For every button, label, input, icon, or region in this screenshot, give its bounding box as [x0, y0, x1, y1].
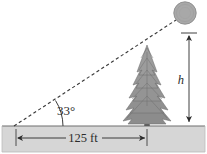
sun-circle — [174, 2, 196, 24]
angle-label: 33° — [57, 103, 75, 118]
base-distance-label: 125 ft — [68, 131, 98, 145]
trigonometry-figure: 33° 125 ft h — [0, 0, 207, 154]
ground-band — [2, 126, 205, 152]
height-label: h — [178, 73, 184, 87]
figure-canvas: 33° 125 ft h — [0, 0, 207, 154]
